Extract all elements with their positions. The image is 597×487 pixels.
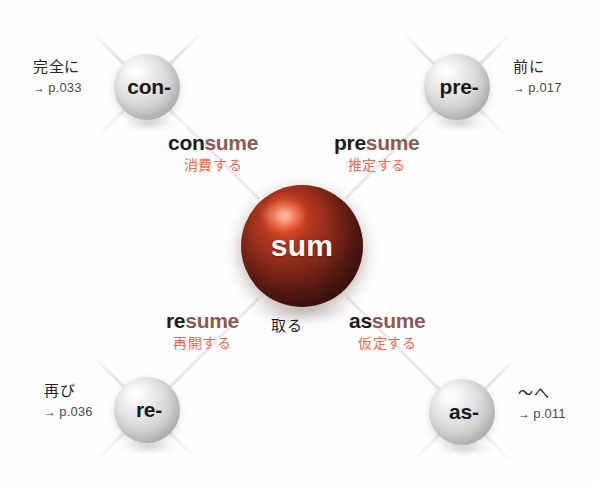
root-meaning: 取る [271,314,303,335]
prefix-sphere-pre[interactable]: pre- [424,54,490,120]
prefix-gloss-con-page-ref: p.033 [48,80,82,95]
prefix-sphere-pre-label: pre- [440,75,479,99]
root-sphere-label: sum [271,229,333,263]
word-consume-meaning: 消費する [168,158,258,173]
word-presume[interactable]: presume 推定する [334,132,419,173]
prefix-gloss-re-page[interactable]: →p.036 [44,404,93,420]
word-assume-text: assume [349,310,425,332]
root-sphere-sum[interactable]: sum [241,185,363,307]
prefix-gloss-as-meaning: 〜へ [518,384,566,403]
arrow-right-icon: → [33,81,45,95]
prefix-gloss-pre-page[interactable]: →p.017 [513,80,562,96]
prefix-gloss-con: 完全に →p.033 [33,58,82,96]
word-resume[interactable]: resume 再開する [166,310,239,351]
word-resume-text: resume [166,310,239,332]
word-consume[interactable]: consume 消費する [168,132,258,173]
prefix-gloss-pre-page-ref: p.017 [528,80,562,95]
word-assume-prefix: as [349,309,372,332]
prefix-gloss-pre-meaning: 前に [513,58,562,77]
prefix-gloss-con-page[interactable]: →p.033 [33,80,82,96]
arrow-right-icon: → [518,407,530,421]
prefix-gloss-re: 再び →p.036 [44,382,93,420]
word-root-diagram: con- pre- re- as- sum 取る 完全に →p.033 前に →… [0,0,597,487]
prefix-sphere-con[interactable]: con- [114,54,180,120]
prefix-gloss-re-page-ref: p.036 [59,404,93,419]
word-resume-prefix: re [166,309,185,332]
word-assume[interactable]: assume 仮定する [349,310,425,351]
word-resume-meaning: 再開する [166,336,239,351]
word-consume-prefix: con [168,131,204,154]
word-presume-stem: sume [366,131,420,154]
word-assume-meaning: 仮定する [349,336,425,351]
prefix-gloss-as-page[interactable]: →p.011 [518,406,566,422]
prefix-gloss-pre: 前に →p.017 [513,58,562,96]
word-consume-text: consume [168,132,258,154]
word-resume-stem: sume [185,309,239,332]
arrow-right-icon: → [44,405,56,419]
word-assume-stem: sume [372,309,426,332]
prefix-sphere-con-label: con- [127,75,171,99]
prefix-sphere-re-label: re- [136,398,162,422]
prefix-gloss-as: 〜へ →p.011 [518,384,566,422]
word-consume-stem: sume [204,131,258,154]
prefix-sphere-as[interactable]: as- [429,379,495,445]
prefix-sphere-re[interactable]: re- [114,377,180,443]
word-presume-meaning: 推定する [334,158,419,173]
prefix-gloss-con-meaning: 完全に [33,58,82,77]
word-presume-text: presume [334,132,419,154]
prefix-gloss-re-meaning: 再び [44,382,93,401]
prefix-gloss-as-page-ref: p.011 [533,406,566,421]
prefix-sphere-as-label: as- [449,400,479,424]
arrow-right-icon: → [513,81,525,95]
word-presume-prefix: pre [334,131,366,154]
